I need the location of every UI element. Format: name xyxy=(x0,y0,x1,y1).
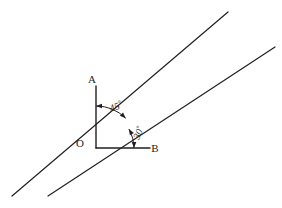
angle-arc-45-arrowhead-end xyxy=(96,104,102,109)
geometry-canvas: A O B 45° 30° xyxy=(0,0,282,208)
angle-arc-45-arrowhead-start xyxy=(120,112,126,118)
geometry-figure: A O B 45° 30° xyxy=(0,0,282,208)
point-label-b: B xyxy=(151,142,158,154)
point-label-a: A xyxy=(88,73,96,85)
point-label-o: O xyxy=(76,137,84,149)
angle-arc-30-arrowhead-start xyxy=(132,142,137,148)
angle-label-45: 45° xyxy=(108,99,124,114)
